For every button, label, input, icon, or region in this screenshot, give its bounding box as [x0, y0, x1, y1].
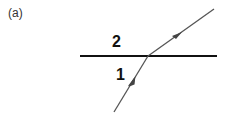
refraction-diagram [0, 0, 230, 117]
